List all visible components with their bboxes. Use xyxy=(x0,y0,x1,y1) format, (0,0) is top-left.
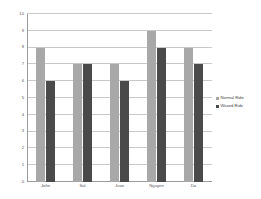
y-tick-label: 5 xyxy=(22,96,24,100)
bars-layer xyxy=(27,14,212,182)
bar-group xyxy=(175,14,212,182)
y-axis-ticks: 012345678910 xyxy=(0,14,24,182)
legend-label: Waxed Ride xyxy=(221,104,244,108)
bar-group xyxy=(64,14,101,182)
legend-swatch-icon xyxy=(216,97,219,100)
bar-group xyxy=(27,14,64,182)
y-tick-label: 3 xyxy=(22,130,24,134)
legend-item[interactable]: Normal Ride xyxy=(216,95,261,102)
x-tick-label: John xyxy=(41,184,50,188)
x-tick-label: Nguyen xyxy=(149,184,163,188)
legend-label: Normal Ride xyxy=(221,96,244,100)
bar-group xyxy=(101,14,138,182)
bar xyxy=(110,64,120,182)
bar xyxy=(73,64,83,182)
bar xyxy=(120,81,130,182)
legend-swatch-icon xyxy=(216,105,219,108)
bar xyxy=(147,31,157,182)
bar xyxy=(184,48,194,182)
x-tick-label: Sal xyxy=(79,184,85,188)
bar xyxy=(194,64,204,182)
plot-area xyxy=(27,14,212,182)
bar-group xyxy=(138,14,175,182)
bar xyxy=(157,48,167,182)
x-axis-ticks: JohnSalJuanNguyenDa xyxy=(27,184,212,197)
bar xyxy=(46,81,56,182)
y-tick-label: 1 xyxy=(22,163,24,167)
y-tick-label: 0 xyxy=(22,180,24,184)
bar xyxy=(83,64,93,182)
y-tick-label: 8 xyxy=(22,46,24,50)
y-tick-label: 7 xyxy=(22,62,24,66)
y-tick-label: 4 xyxy=(22,113,24,117)
y-tick-label: 2 xyxy=(22,146,24,150)
y-tick-label: 9 xyxy=(22,29,24,33)
legend-item[interactable]: Waxed Ride xyxy=(216,103,261,110)
bar-chart: 012345678910 JohnSalJuanNguyenDa Normal … xyxy=(0,0,261,199)
x-tick-label: Da xyxy=(191,184,196,188)
y-tick-label: 6 xyxy=(22,79,24,83)
legend: Normal RideWaxed Ride xyxy=(216,95,261,111)
y-axis-line xyxy=(27,14,28,182)
y-tick-label: 10 xyxy=(19,12,24,16)
bar xyxy=(36,48,46,182)
x-tick-label: Juan xyxy=(115,184,124,188)
